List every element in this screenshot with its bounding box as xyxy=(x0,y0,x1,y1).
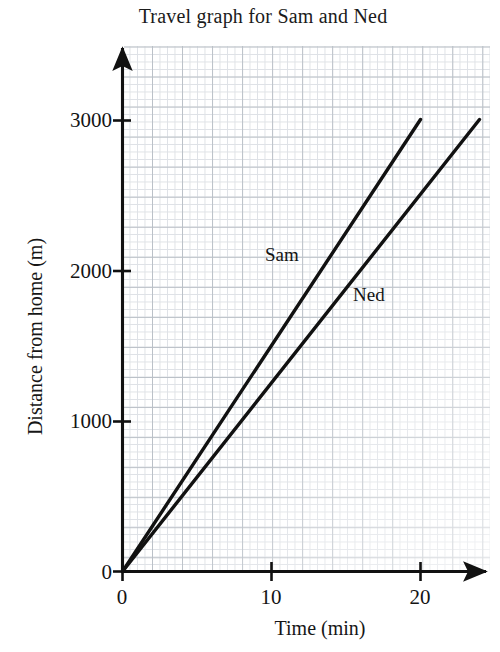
series-label-ned: Ned xyxy=(353,285,385,304)
x-tick-label-0: 0 xyxy=(92,587,152,608)
x-tick-label-10: 10 xyxy=(241,587,301,608)
x-tick-labels: 0 10 20 xyxy=(0,0,500,652)
x-axis-title: Time (min) xyxy=(140,617,500,640)
series-label-sam: Sam xyxy=(265,245,299,264)
x-tick-label-20: 20 xyxy=(390,587,450,608)
y-axis-title: Distance from home (m) xyxy=(24,187,47,487)
travel-graph-figure: Travel graph for Sam and Ned 0 xyxy=(0,0,500,652)
